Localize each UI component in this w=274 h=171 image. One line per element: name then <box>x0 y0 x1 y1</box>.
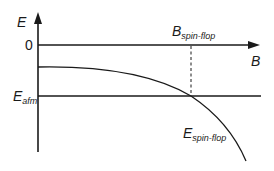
x-axis-label: B <box>251 53 260 69</box>
spinflop-energy-curve <box>38 67 246 161</box>
y-axis-label: E <box>17 14 27 30</box>
spinflop-energy-label: Espin-flop <box>183 125 226 143</box>
x-axis-arrow-icon <box>248 41 260 49</box>
spinflop-field-label: Bspin-flop <box>172 23 215 41</box>
zero-label: 0 <box>25 37 33 53</box>
energy-field-diagram: E 0 B Eafm Bspin-flop Espin-flop <box>0 0 274 171</box>
y-axis-arrow-icon <box>34 12 42 24</box>
afm-energy-label: Eafm <box>13 88 38 106</box>
